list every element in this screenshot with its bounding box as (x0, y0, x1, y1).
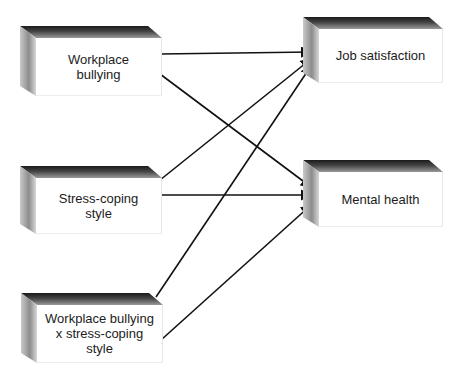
label-line: Workplace (68, 52, 129, 67)
arrow-interaction-to-mental-health (161, 205, 311, 340)
box-face: Workplace bullying (36, 38, 162, 96)
box-face: Job satisfaction (319, 29, 443, 83)
arrow-coping-to-job-satisfaction (160, 59, 311, 180)
label-line: Workplace bullying (45, 311, 154, 326)
box-workplace-bullying: Workplace bullying (20, 26, 162, 96)
box-face: Workplace bullying x stress-coping style (37, 305, 163, 363)
box-top-bevel (303, 160, 443, 172)
label-line: bullying (68, 67, 129, 82)
box-left-bevel (21, 293, 37, 363)
box-top-bevel (20, 166, 162, 178)
path-diagram: Workplace bullying Stress-coping style W… (0, 0, 458, 377)
box-top-bevel (303, 17, 443, 29)
box-top-bevel (21, 293, 163, 305)
box-job-satisfaction: Job satisfaction (303, 17, 443, 83)
label-line: style (59, 206, 138, 221)
box-left-bevel (20, 26, 36, 96)
label-line: Job satisfaction (336, 48, 426, 63)
arrow-bullying-to-job-satisfaction (160, 52, 311, 54)
arrow-bullying-to-mental-health (160, 74, 311, 187)
label-line: x stress-coping (45, 326, 154, 341)
box-face: Stress-coping style (36, 178, 162, 234)
box-stress-coping-style: Stress-coping style (20, 166, 162, 234)
label-line: Stress-coping (59, 191, 138, 206)
box-mental-health: Mental health (303, 160, 443, 227)
box-interaction: Workplace bullying x stress-coping style (21, 293, 163, 363)
label-line: style (45, 341, 154, 356)
box-top-bevel (20, 26, 162, 38)
label-line: Mental health (341, 192, 419, 207)
box-face: Mental health (319, 172, 443, 227)
arrow-interaction-to-job-satisfaction (156, 66, 311, 297)
